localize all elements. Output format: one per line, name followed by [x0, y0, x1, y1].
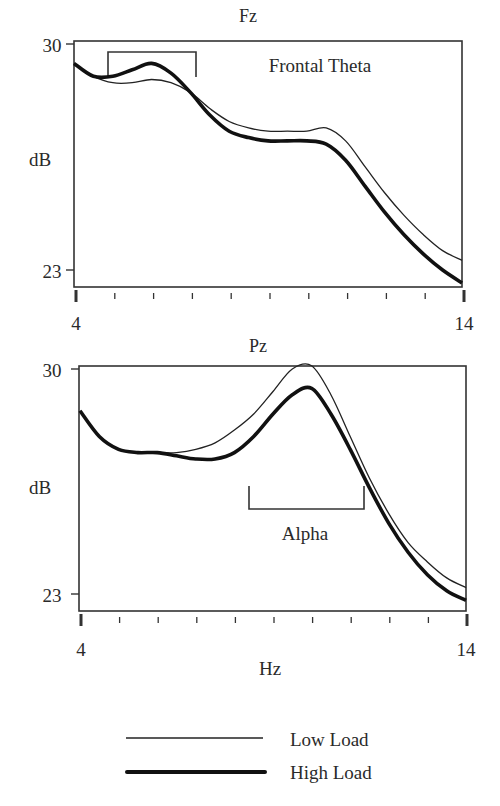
x-ticks-fz: [76, 290, 464, 302]
x-tick-label-14-pz: 14: [457, 639, 477, 660]
x-tick-label-4-pz: 4: [76, 639, 86, 660]
x-tick-label-14-fz: 14: [455, 313, 475, 334]
series-high-load-pz: [80, 387, 466, 600]
legend: Low Load High Load: [126, 729, 372, 783]
bracket-alpha: [249, 486, 364, 509]
y-tick-label-30-fz: 30: [43, 35, 62, 56]
figure: Fz 30 23 dB Frontal Theta 4 14 Pz 30 23 …: [0, 0, 500, 806]
series-high-load-fz: [74, 63, 462, 283]
annotation-alpha: Alpha: [282, 523, 329, 544]
y-axis-label-pz: dB: [29, 477, 51, 498]
x-tick-label-4-fz: 4: [71, 313, 81, 334]
y-tick-label-30-pz: 30: [43, 360, 62, 381]
x-axis-label-hz: Hz: [259, 658, 281, 679]
chart-title-fz: Fz: [239, 6, 257, 26]
y-tick-label-23-pz: 23: [43, 585, 62, 606]
annotation-frontal-theta: Frontal Theta: [269, 55, 372, 76]
chart-title-pz: Pz: [249, 336, 267, 356]
series-low-load-fz: [74, 63, 462, 260]
chart-pz: Pz 30 23 dB Alpha 4 14 Hz: [29, 336, 476, 679]
plot-frame-fz: [74, 41, 462, 287]
plot-frame-pz: [79, 366, 466, 611]
legend-label-high-load: High Load: [290, 762, 372, 783]
legend-label-low-load: Low Load: [290, 729, 369, 750]
x-ticks-pz: [81, 614, 467, 626]
y-tick-label-23-fz: 23: [43, 261, 62, 282]
y-axis-label-fz: dB: [29, 149, 51, 170]
chart-fz: Fz 30 23 dB Frontal Theta 4 14: [29, 6, 474, 334]
